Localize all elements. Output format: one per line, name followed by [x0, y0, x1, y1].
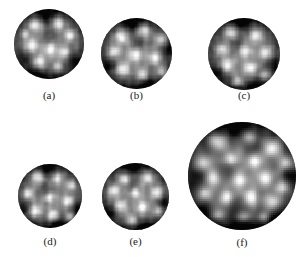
- micrograph-disc-b: [101, 18, 172, 89]
- panel-label-d: (d): [18, 235, 82, 247]
- figure-panel-f: [188, 122, 296, 230]
- figure-panel-b: [101, 18, 172, 89]
- micrograph-disc-f: [188, 122, 296, 230]
- figure-panel-grid: (a)(b)(c)(d)(e)(f): [0, 0, 308, 257]
- panel-label-f: (f): [188, 236, 296, 248]
- figure-panel-e: [102, 163, 169, 230]
- micrograph-disc-e: [102, 163, 169, 230]
- panel-label-e: (e): [102, 235, 169, 247]
- panel-label-b: (b): [101, 89, 172, 101]
- panel-label-a: (a): [14, 89, 84, 101]
- figure-panel-c: [208, 18, 280, 90]
- micrograph-disc-d: [18, 164, 82, 228]
- figure-panel-a: [14, 9, 84, 79]
- micrograph-disc-a: [14, 9, 84, 79]
- panel-label-c: (c): [208, 89, 280, 101]
- micrograph-disc-c: [208, 18, 280, 90]
- figure-panel-d: [18, 164, 82, 228]
